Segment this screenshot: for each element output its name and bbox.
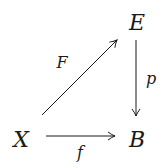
node-e: E <box>128 10 145 35</box>
label-capital-f: F <box>55 53 68 72</box>
arrow-f-diagonal <box>42 40 117 115</box>
node-x: X <box>11 127 30 152</box>
commutative-diagram: E X B F p f <box>0 0 162 168</box>
node-b: B <box>128 127 145 152</box>
label-f: f <box>76 143 86 162</box>
label-p: p <box>146 69 156 88</box>
